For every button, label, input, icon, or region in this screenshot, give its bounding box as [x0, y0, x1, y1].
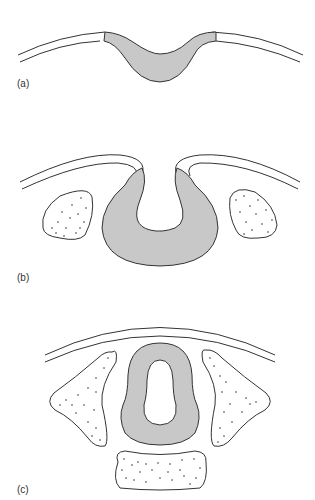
- panel-b: [20, 155, 300, 266]
- sclerotome-left: [50, 351, 117, 446]
- neural-folds: [102, 168, 218, 266]
- vertebral-body: [115, 451, 206, 490]
- panel-c: [45, 328, 275, 491]
- ectoderm-left-inner: [22, 163, 137, 189]
- neural-tube-diagram: [0, 0, 315, 500]
- ectoderm-left-inner: [20, 41, 100, 62]
- ectoderm-left-outer: [20, 155, 143, 182]
- panel-a: [18, 32, 303, 82]
- ectoderm-right-outer: [212, 32, 303, 55]
- panel-label-c: (c): [17, 484, 29, 495]
- neural-plate: [104, 32, 216, 82]
- neural-canal: [144, 360, 176, 425]
- ectoderm-right-inner: [216, 41, 300, 62]
- somite-right: [230, 190, 277, 239]
- ectoderm-right-inner: [189, 163, 298, 189]
- ectoderm-left-outer: [18, 32, 105, 55]
- somite-left: [43, 191, 93, 240]
- panel-label-b: (b): [17, 272, 29, 283]
- sclerotome-right: [202, 350, 270, 447]
- ectoderm-right-outer: [176, 155, 301, 182]
- panel-label-a: (a): [17, 78, 29, 89]
